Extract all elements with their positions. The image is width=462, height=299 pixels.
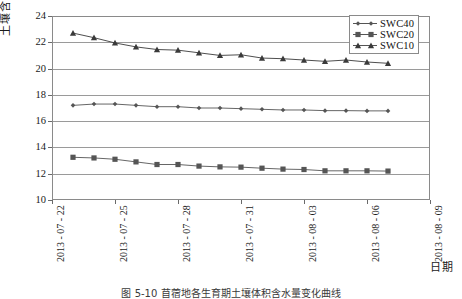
y-tick-label: 24 xyxy=(24,11,46,21)
data-point-marker-triangle xyxy=(355,42,361,48)
gridline xyxy=(53,95,429,96)
data-point-marker-diamond xyxy=(356,21,361,26)
legend-item-swc40[interactable]: SWC40 xyxy=(353,18,414,29)
y-tick-label: 16 xyxy=(24,116,46,126)
x-tick-label: 2013 - 07 - 22 xyxy=(56,205,66,262)
x-tick-label: 2013 - 07 - 25 xyxy=(119,205,129,262)
legend-item-swc20[interactable]: SWC20 xyxy=(353,29,414,40)
x-tick-mark xyxy=(367,200,368,204)
x-tick-mark xyxy=(178,200,179,204)
y-tick-label: 22 xyxy=(24,37,46,47)
gridline xyxy=(53,69,429,70)
legend-item-swc10[interactable]: SWC10 xyxy=(353,40,414,51)
y-tick-label: 12 xyxy=(24,169,46,179)
legend-marker-diamond-icon xyxy=(353,18,377,29)
legend-marker-triangle-icon xyxy=(353,40,377,51)
chart-legend[interactable]: SWC40SWC20SWC10 xyxy=(349,15,419,54)
y-axis-title: 土壤含水量/% xyxy=(0,0,12,36)
x-tick-mark xyxy=(52,200,53,204)
x-tick-label: 2013 - 08 - 03 xyxy=(308,205,318,262)
x-tick-label: 2013 - 08 - 06 xyxy=(371,205,381,262)
x-axis-title: 日期 xyxy=(430,258,454,274)
legend-label: SWC10 xyxy=(380,40,414,51)
gridline xyxy=(53,147,429,148)
x-tick-label: 2013 - 07 - 28 xyxy=(182,205,192,262)
x-tick-label: 2013 - 07 - 31 xyxy=(245,205,255,262)
x-tick-mark xyxy=(430,200,431,204)
legend-marker-square-icon xyxy=(353,29,377,40)
data-point-marker-square xyxy=(355,32,360,37)
data-point-marker-diamond xyxy=(369,21,374,26)
y-tick-label: 18 xyxy=(24,90,46,100)
x-tick-label: 2013 - 08 - 09 xyxy=(434,205,444,262)
data-point-marker-square xyxy=(368,32,373,37)
x-tick-mark xyxy=(304,200,305,204)
legend-label: SWC20 xyxy=(380,29,414,40)
y-tick-label: 10 xyxy=(24,195,46,205)
legend-label: SWC40 xyxy=(380,18,414,29)
gridline xyxy=(53,174,429,175)
y-tick-label: 20 xyxy=(24,64,46,74)
gridline xyxy=(53,121,429,122)
data-point-marker-triangle xyxy=(368,42,374,48)
figure-caption: 图 5-10 苜蓿地各生育期土壤体积含水量变化曲线 xyxy=(0,288,462,299)
x-tick-mark xyxy=(115,200,116,204)
y-tick-label: 14 xyxy=(24,142,46,152)
x-tick-mark xyxy=(241,200,242,204)
